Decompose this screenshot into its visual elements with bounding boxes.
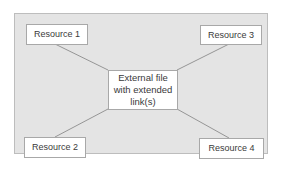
connector-resource-4 [177,109,229,138]
external-file-line-3: link(s) [130,96,155,108]
external-file-line-1: External file [118,72,168,84]
external-file-box: External file with extended link(s) [108,70,178,110]
resource-1-box: Resource 1 [26,24,88,45]
connector-resource-1 [55,44,108,70]
resource-4-label: Resource 4 [208,143,254,154]
resource-2-label: Resource 2 [32,142,78,153]
resource-3-label: Resource 3 [208,30,254,41]
resource-1-label: Resource 1 [34,29,80,40]
connector-resource-3 [177,44,229,70]
external-file-line-2: with extended [114,84,173,96]
resource-2-box: Resource 2 [24,137,86,158]
diagram-canvas: Resource 1 Resource 3 Resource 2 Resourc… [0,0,281,173]
connector-resource-2 [55,109,108,137]
resource-3-box: Resource 3 [200,25,262,45]
resource-4-box: Resource 4 [199,138,264,159]
